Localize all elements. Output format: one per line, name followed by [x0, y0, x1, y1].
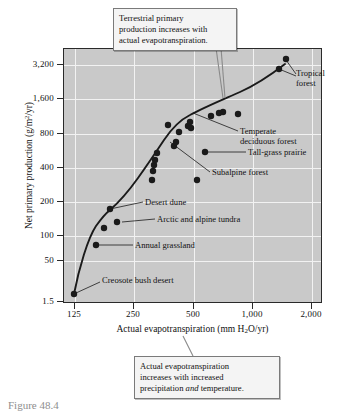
gridline-horizontal — [64, 168, 321, 169]
point-label-line2: forest — [296, 78, 325, 88]
y-tick-label: 100 — [40, 231, 54, 240]
y-tick — [57, 201, 63, 202]
gridline-horizontal — [64, 202, 321, 203]
gridline-horizontal — [64, 236, 321, 237]
gridline-vertical — [194, 49, 195, 302]
gridline-horizontal — [64, 65, 321, 66]
point-label-line1: Tropical — [296, 68, 325, 78]
gridline-vertical — [75, 49, 76, 302]
y-tick-label: 3,200 — [33, 60, 54, 69]
callout-bottom-emphasis: and — [186, 383, 199, 393]
y-axis-title-exponent: 2 — [23, 116, 30, 119]
point-label-tall-grass-prairie: Tall-grass prairie — [248, 147, 306, 157]
point-label-annual-grassland: Annual grassland — [135, 240, 195, 250]
x-tick-label: 2,000 — [300, 310, 321, 319]
callout-top: Terrestrial primary production increases… — [113, 8, 237, 51]
bottom-callout-leader-line — [183, 336, 193, 356]
point-label-tropical-forest: Tropical forest — [296, 68, 325, 88]
y-tick — [57, 98, 63, 99]
y-axis-title: Net primary production (g/m2/yr) — [23, 66, 34, 266]
callout-bottom: Actual evapotranspiration increases with… — [134, 356, 280, 399]
x-axis-title-suffix: O/yr) — [248, 324, 269, 334]
point-label-temperate-deciduous-forest: Temperate deciduous forest — [240, 126, 297, 146]
y-tick — [57, 301, 63, 302]
y-tick — [57, 167, 63, 168]
gridline-horizontal — [64, 261, 321, 262]
plot-area — [63, 48, 322, 303]
y-tick-label: 200 — [40, 197, 54, 206]
x-tick-label: 500 — [186, 310, 200, 319]
figure-caption: Figure 48.4 — [8, 399, 59, 411]
y-tick — [57, 260, 63, 261]
gridline-horizontal — [64, 99, 321, 100]
callout-top-line3: actual evapotranspiration. — [119, 35, 231, 46]
y-tick-label: 1,600 — [33, 94, 54, 103]
callout-top-line2: production increases with — [119, 24, 231, 35]
callout-bottom-line3: precipitation and temperature. — [140, 383, 274, 394]
y-axis-title-suffix: /yr) — [24, 102, 34, 116]
y-tick-label: 1.5 — [42, 297, 54, 306]
x-tick-label: 250 — [126, 310, 140, 319]
point-label-subalpine-forest: Subalpine forest — [212, 167, 268, 177]
y-tick-label: 400 — [40, 163, 54, 172]
point-label-line1: Temperate — [240, 126, 297, 136]
y-tick — [57, 133, 63, 134]
y-tick — [57, 235, 63, 236]
y-tick-label: 50 — [45, 256, 54, 265]
callout-bottom-line1: Actual evapotranspiration — [140, 361, 274, 372]
callout-bottom-line3-b: temperature. — [198, 383, 243, 393]
y-tick — [57, 64, 63, 65]
x-axis-title-prefix: Actual evapotranspiration (mm H — [116, 324, 244, 334]
point-label-desert-dune: Desert dune — [145, 197, 186, 207]
x-tick-label: 1,000 — [241, 310, 262, 319]
x-tick-label: 125 — [67, 310, 81, 319]
callout-bottom-line2: increases with increased — [140, 372, 274, 383]
gridline-vertical — [134, 49, 135, 302]
x-axis-title: Actual evapotranspiration (mm H2O/yr) — [63, 324, 322, 335]
point-label-arctic-alpine-tundra: Arctic and alpine tundra — [157, 214, 240, 224]
y-axis-title-prefix: Net primary production (g/m — [24, 119, 34, 229]
y-tick-label: 800 — [40, 129, 54, 138]
point-label-line2: deciduous forest — [240, 136, 297, 146]
point-label-creosote-bush-desert: Creosote bush desert — [102, 275, 174, 285]
callout-bottom-line3-a: precipitation — [140, 383, 186, 393]
callout-top-line1: Terrestrial primary — [119, 13, 231, 24]
